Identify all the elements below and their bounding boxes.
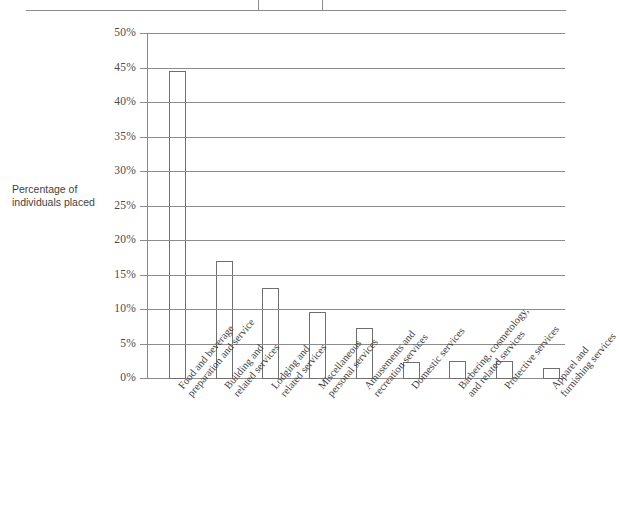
- y-axis-tick: [140, 309, 147, 310]
- gridline: [147, 68, 565, 69]
- y-axis-tick-label-wrap: 5%: [92, 337, 136, 349]
- y-axis-tick-label: 5%: [96, 337, 136, 349]
- y-axis-tick-label-wrap: 0%: [92, 371, 136, 383]
- y-axis-tick-label: 30%: [96, 164, 136, 176]
- y-axis-tick-label: 35%: [96, 130, 136, 142]
- gridline: [147, 171, 565, 172]
- y-axis-tick-label-wrap: 15%: [92, 268, 136, 280]
- y-axis-tick-label: 20%: [96, 233, 136, 245]
- gridline: [147, 102, 565, 103]
- y-axis-tick-label: 0%: [96, 371, 136, 383]
- y-axis-tick-label: 25%: [96, 199, 136, 211]
- y-axis-tick-label: 15%: [96, 268, 136, 280]
- y-axis-tick-label-wrap: 40%: [92, 95, 136, 107]
- plot-area: [147, 33, 565, 378]
- y-axis-tick-label: 50%: [96, 26, 136, 38]
- y-axis-tick-label: 40%: [96, 95, 136, 107]
- y-axis-title-line2: individuals placed: [12, 196, 95, 208]
- y-axis-tick-label-wrap: 20%: [92, 233, 136, 245]
- y-axis-tick: [140, 206, 147, 207]
- y-axis-tick-label-wrap: 25%: [92, 199, 136, 211]
- y-axis-tick-label-wrap: 10%: [92, 302, 136, 314]
- y-axis-tick: [140, 137, 147, 138]
- y-axis-tick-label: 10%: [96, 302, 136, 314]
- gridline: [147, 206, 565, 207]
- y-axis-tick: [140, 344, 147, 345]
- y-axis-tick: [140, 33, 147, 34]
- y-axis-tick-label-wrap: 50%: [92, 26, 136, 38]
- gridline: [147, 309, 565, 310]
- y-axis-tick-label-wrap: 35%: [92, 130, 136, 142]
- y-axis-tick: [140, 171, 147, 172]
- y-axis-tick: [140, 240, 147, 241]
- bar: [169, 71, 186, 379]
- y-axis-tick: [140, 275, 147, 276]
- y-axis-tick: [140, 378, 147, 379]
- gridline: [147, 33, 565, 34]
- gridline: [147, 240, 565, 241]
- y-axis-title-line1: Percentage of: [12, 183, 77, 195]
- gridline: [147, 137, 565, 138]
- y-axis-tick-label-wrap: 45%: [92, 61, 136, 73]
- gridline: [147, 275, 565, 276]
- y-axis-tick-label: 45%: [96, 61, 136, 73]
- y-axis-tick-label-wrap: 30%: [92, 164, 136, 176]
- y-axis-tick: [140, 102, 147, 103]
- y-axis-tick: [140, 68, 147, 69]
